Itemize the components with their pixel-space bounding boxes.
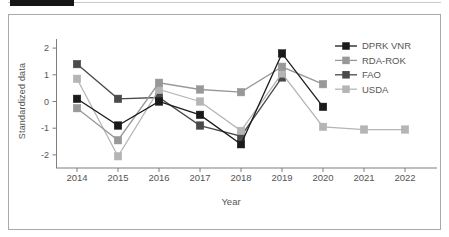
x-tick-label: 2019	[271, 172, 292, 183]
data-point	[319, 123, 327, 130]
y-axis-title: Standardized data	[17, 55, 29, 147]
legend-marker	[342, 85, 350, 93]
data-point	[73, 95, 81, 103]
data-point	[155, 98, 163, 106]
legend-entry-USDA: USDA	[335, 84, 389, 95]
data-point	[237, 127, 245, 134]
data-point	[401, 126, 409, 134]
data-point	[114, 122, 122, 130]
x-tick-label: 2020	[312, 172, 333, 183]
legend-entry-RDA-ROK: RDA-ROK	[335, 55, 406, 66]
data-point	[196, 111, 204, 119]
legend-label: FAO	[362, 69, 381, 80]
cropped-header-bar	[10, 0, 74, 6]
data-point	[114, 95, 122, 103]
data-point	[278, 63, 286, 71]
legend-marker	[342, 71, 350, 79]
data-point	[73, 75, 81, 83]
x-tick-label: 2015	[107, 172, 128, 183]
y-tick-label: 1	[44, 70, 49, 80]
data-point	[278, 70, 286, 78]
y-tick-label: 0	[44, 97, 49, 107]
x-tick-label: 2018	[230, 172, 251, 183]
legend-entry-DPRK-VNR: DPRK VNR	[335, 40, 411, 51]
data-point	[73, 104, 81, 112]
data-point	[196, 86, 204, 94]
legend-marker	[342, 42, 350, 50]
data-point	[237, 88, 245, 96]
legend-entry-FAO: FAO	[335, 69, 381, 80]
data-point	[196, 122, 204, 130]
data-point	[114, 152, 122, 160]
legend-label: RDA-ROK	[362, 55, 406, 66]
data-point	[196, 98, 204, 106]
x-tick-label: 2021	[353, 172, 374, 183]
chart-legend: DPRK VNRRDA-ROKFAOUSDA	[335, 40, 411, 94]
data-point	[237, 140, 245, 148]
y-tick-label: -1	[41, 123, 49, 133]
y-tick-label: 2	[44, 43, 49, 53]
data-point	[73, 60, 81, 67]
x-tick-label: 2014	[66, 172, 87, 183]
legend-marker	[342, 57, 350, 65]
series-line	[77, 64, 282, 136]
legend-label: USDA	[362, 84, 389, 95]
x-tick-label: 2016	[148, 172, 169, 183]
data-point	[319, 80, 327, 88]
y-tick-label: -2	[41, 150, 49, 160]
chart-panel: 210-1-2201420152016201720182019202020212…	[8, 14, 441, 230]
data-point	[155, 79, 163, 87]
x-axis-title: Year	[187, 196, 275, 207]
data-point	[319, 103, 327, 111]
x-tick-label: 2022	[394, 172, 415, 183]
x-tick-label: 2017	[189, 172, 210, 183]
data-point	[114, 136, 122, 144]
legend-label: DPRK VNR	[362, 40, 411, 51]
page: 210-1-2201420152016201720182019202020212…	[0, 0, 449, 237]
data-point	[360, 126, 368, 134]
series-FAO	[73, 60, 286, 140]
data-point	[278, 50, 286, 58]
